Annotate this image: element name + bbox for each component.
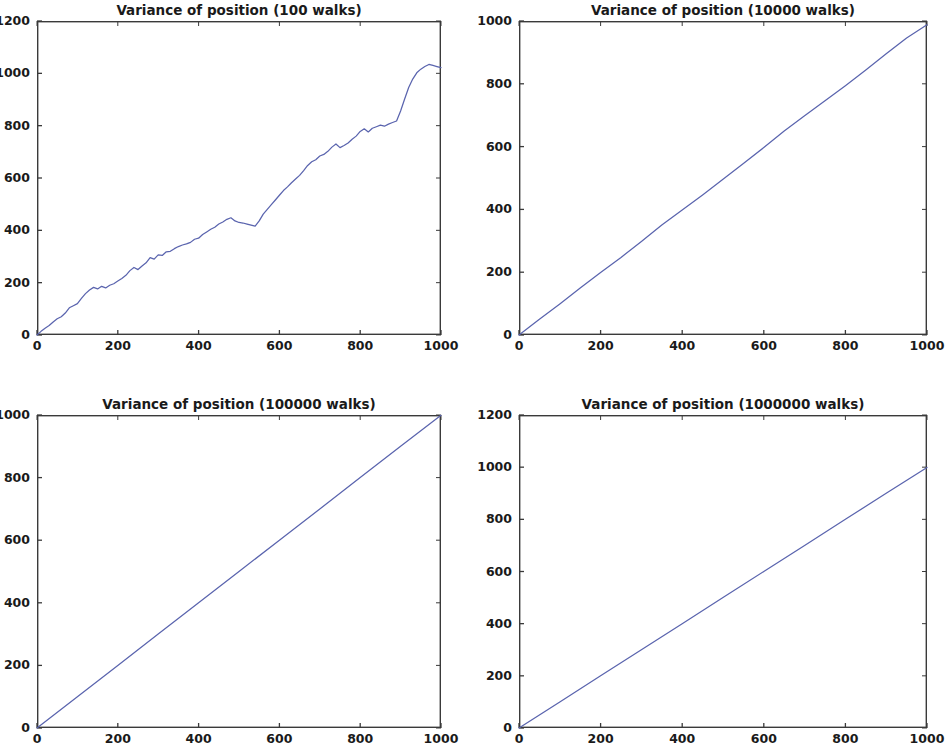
x-tick-label: 400 [669,731,695,746]
x-tick-label: 200 [588,731,614,746]
x-tick-label: 400 [669,338,695,353]
y-tick-label: 200 [4,657,30,672]
y-tick-label: 200 [486,668,512,683]
subplot-variance-100-walks: 02004006008001000120002004006008001000Va… [37,21,441,335]
y-tick-label: 0 [503,327,512,342]
x-tick-label: 0 [515,731,524,746]
y-tick-label: 1200 [0,13,30,28]
x-tick-label: 400 [186,338,212,353]
x-tick-label: 1000 [424,731,459,746]
y-tick-label: 0 [21,327,30,342]
subplot-variance-100000-walks: 0200400600800100002004006008001000Varian… [37,415,441,728]
y-tick-label: 200 [486,264,512,279]
y-tick-label: 0 [21,720,30,735]
data-series-variance [37,415,441,728]
y-tick-label: 600 [486,564,512,579]
subplot-variance-1000000-walks: 02004006008001000120002004006008001000Va… [519,415,927,728]
x-tick-label: 0 [33,338,42,353]
x-tick-label: 0 [515,338,524,353]
x-tick-label: 200 [105,731,131,746]
x-tick-label: 200 [588,338,614,353]
plot-title: Variance of position (100 walks) [116,2,361,18]
axes-frame [38,22,441,335]
data-series-variance [519,467,927,728]
x-tick-label: 200 [105,338,131,353]
random-walk-variance-figure: 02004006008001000120002004006008001000Va… [0,0,950,748]
y-tick-label: 1200 [477,407,512,422]
plot-title: Variance of position (100000 walks) [102,396,375,412]
y-tick-label: 600 [4,170,30,185]
x-tick-label: 800 [347,731,373,746]
y-tick-label: 800 [486,511,512,526]
x-tick-label: 400 [186,731,212,746]
x-tick-label: 1000 [424,338,459,353]
data-series-variance [519,25,927,335]
x-tick-label: 600 [751,338,777,353]
y-tick-label: 1000 [0,65,30,80]
y-tick-label: 200 [4,275,30,290]
y-tick-label: 1000 [477,459,512,474]
y-tick-label: 600 [4,532,30,547]
x-tick-label: 600 [751,731,777,746]
subplot-variance-10000-walks: 0200400600800100002004006008001000Varian… [519,21,927,335]
plot-title: Variance of position (10000 walks) [591,2,855,18]
y-tick-label: 800 [4,118,30,133]
x-tick-label: 0 [33,731,42,746]
y-tick-label: 0 [503,720,512,735]
data-series-variance [37,64,441,335]
plot-title: Variance of position (1000000 walks) [582,396,865,412]
y-tick-label: 400 [4,595,30,610]
y-tick-label: 400 [4,222,30,237]
x-tick-label: 800 [347,338,373,353]
y-tick-label: 1000 [0,407,30,422]
x-tick-label: 1000 [910,338,945,353]
x-tick-label: 600 [266,731,292,746]
axes-frame [520,416,927,728]
y-tick-label: 400 [486,616,512,631]
x-tick-label: 1000 [910,731,945,746]
y-tick-label: 400 [486,201,512,216]
y-tick-label: 800 [486,76,512,91]
x-tick-label: 600 [266,338,292,353]
y-tick-label: 600 [486,139,512,154]
y-tick-label: 800 [4,470,30,485]
x-tick-label: 800 [832,731,858,746]
x-tick-label: 800 [832,338,858,353]
y-tick-label: 1000 [477,13,512,28]
